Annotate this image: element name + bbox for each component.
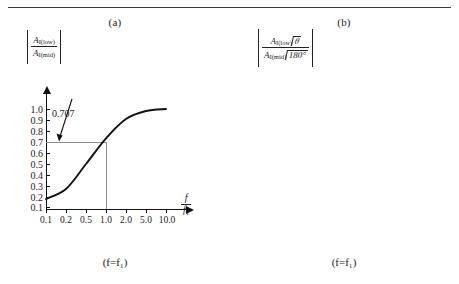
panel-a-y-axis-label: AI(low) AI(mid) (27, 30, 61, 64)
panel-a-x-axis-name: f f₁ (181, 193, 191, 215)
panel-a-y-tick-label: 0.8 (16, 126, 43, 137)
fraction-numerator: AI(low) (31, 36, 57, 48)
magnitude-fraction: AI(low) AI(mid) (28, 36, 60, 59)
fraction-denominator: AI(mid) (31, 47, 57, 59)
panel-b-caption: (b) (229, 16, 459, 28)
panel-a-y-tick-label: 0.1 (16, 202, 43, 213)
panel-a-y-tick-label: 0.4 (16, 170, 43, 181)
panel-a-y-tick-label: 0.5 (16, 159, 43, 170)
numerator-angle: θ (294, 36, 301, 46)
panel-a-bottom-caption: (f=f₁) (0, 256, 230, 268)
panel-b-y-axis-label: AI(low)θ AI(mid)180° (258, 29, 313, 67)
phase-fraction: AI(low)θ AI(mid)180° (259, 36, 312, 61)
panel-a-y-tick-label: 0.3 (16, 181, 43, 192)
denominator-angle: 180° (288, 50, 307, 60)
x-axis-denominator: f₁ (181, 205, 191, 216)
panel-b-bottom-caption: (f=f₁) (229, 256, 459, 268)
denominator-subscript: I(mid) (39, 51, 56, 58)
panel-a-y-tick-label: 1.0 (16, 104, 43, 115)
panel-a-y-tick-label: 0.6 (16, 148, 43, 159)
panel-b: (b) AI(low)θ AI(mid)180° 80° 60° 40° 20°… (229, 0, 459, 284)
numerator-subscript: I(low) (39, 38, 55, 45)
denominator-subscript: I(mid) (270, 53, 287, 60)
numerator-subscript: I(low) (276, 39, 292, 46)
abs-bar-right (60, 30, 61, 64)
panel-a: (a) AI(low) AI(mid) 1.0 0.9 0.8 0.7 0. (0, 0, 230, 284)
fraction-denominator: AI(mid)180° (262, 48, 309, 61)
fraction-numerator: AI(low)θ (262, 36, 309, 49)
panel-a-y-tick-label: 0.7 (16, 137, 43, 148)
abs-bar-right (312, 29, 313, 67)
angle-icon: 180° (285, 50, 308, 60)
cutoff-annotation: 0.707 (52, 108, 75, 119)
x-axis-numerator: f (181, 193, 191, 205)
angle-icon: θ (291, 36, 302, 46)
panel-a-caption: (a) (0, 16, 230, 28)
panel-a-y-tick-label: 0.9 (16, 115, 43, 126)
